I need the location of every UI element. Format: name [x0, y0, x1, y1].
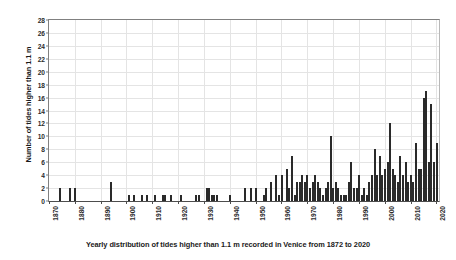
- y-tick-mark: [46, 188, 49, 189]
- y-tick-label: 4: [41, 172, 45, 179]
- bar: [216, 195, 218, 201]
- bar: [133, 195, 135, 201]
- x-tick-mark: [333, 201, 334, 204]
- x-tick-mark: [307, 201, 308, 204]
- x-tick-label: 1940: [233, 206, 240, 221]
- y-tick-label: 22: [38, 55, 45, 62]
- bar: [198, 195, 200, 201]
- x-tick-label: 1870: [52, 206, 59, 221]
- y-tick-label: 16: [38, 94, 45, 101]
- x-tick-mark: [436, 201, 437, 204]
- x-tick-mark: [152, 201, 153, 204]
- bar: [146, 195, 148, 201]
- bar: [141, 195, 143, 201]
- x-tick-label: 1920: [181, 206, 188, 221]
- bar: [180, 195, 182, 201]
- y-tick-label: 6: [41, 159, 45, 166]
- x-tick-mark: [204, 201, 205, 204]
- y-tick-label: 2: [41, 185, 45, 192]
- x-tick-label: 1890: [104, 206, 111, 221]
- y-tick-mark: [46, 58, 49, 59]
- y-tick-mark: [46, 32, 49, 33]
- y-tick-mark: [46, 97, 49, 98]
- y-tick-mark: [46, 110, 49, 111]
- y-tick-mark: [46, 175, 49, 176]
- x-tick-mark: [101, 201, 102, 204]
- y-tick-mark: [46, 162, 49, 163]
- x-tick-mark: [281, 201, 282, 204]
- y-tick-mark: [46, 149, 49, 150]
- bar: [154, 195, 156, 201]
- x-tick-mark: [178, 201, 179, 204]
- x-tick-label: 1950: [259, 206, 266, 221]
- y-tick-label: 8: [41, 146, 45, 153]
- x-tick-mark: [75, 201, 76, 204]
- bar: [265, 188, 267, 201]
- y-tick-mark: [46, 123, 49, 124]
- y-tick-mark: [46, 45, 49, 46]
- chart-container: Number of tides higher than 1.1 m 024681…: [0, 0, 456, 260]
- bar: [164, 195, 166, 201]
- bar: [250, 188, 252, 201]
- plot-area: 0246810121416182022242628 18701880189019…: [48, 19, 440, 202]
- x-tick-label: 1990: [362, 206, 369, 221]
- y-tick-mark: [46, 71, 49, 72]
- bar: [281, 175, 283, 201]
- bar: [110, 182, 112, 201]
- x-tick-label: 1880: [78, 206, 85, 221]
- bar: [270, 182, 272, 201]
- x-tick-label: 2020: [439, 206, 446, 221]
- y-axis-title: Number of tides higher than 1.1 m: [24, 10, 33, 200]
- y-tick-label: 0: [41, 198, 45, 205]
- y-tick-label: 14: [38, 107, 45, 114]
- y-tick-label: 12: [38, 120, 45, 127]
- bar: [255, 188, 257, 201]
- y-tick-mark: [46, 20, 49, 21]
- y-tick-label: 20: [38, 68, 45, 75]
- x-axis-title: Yearly distribution of tides higher than…: [0, 240, 456, 249]
- x-tick-label: 1930: [207, 206, 214, 221]
- y-tick-label: 26: [38, 29, 45, 36]
- x-tick-mark: [359, 201, 360, 204]
- y-tick-mark: [46, 84, 49, 85]
- x-tick-mark: [385, 201, 386, 204]
- bar: [74, 188, 76, 201]
- y-tick-label: 24: [38, 42, 45, 49]
- x-tick-label: 2000: [388, 206, 395, 221]
- bar: [128, 195, 130, 201]
- bar-series: [49, 20, 439, 201]
- x-tick-label: 1970: [310, 206, 317, 221]
- x-tick-mark: [126, 201, 127, 204]
- y-tick-mark: [46, 136, 49, 137]
- x-tick-label: 2010: [414, 206, 421, 221]
- bar: [59, 188, 61, 201]
- bar: [69, 188, 71, 201]
- y-tick-label: 18: [38, 81, 45, 88]
- x-tick-mark: [411, 201, 412, 204]
- x-tick-label: 1980: [336, 206, 343, 221]
- bar: [436, 143, 438, 201]
- bar: [170, 195, 172, 201]
- x-tick-mark: [49, 201, 50, 204]
- y-tick-label: 10: [38, 133, 45, 140]
- bar: [244, 188, 246, 201]
- x-tick-label: 1960: [284, 206, 291, 221]
- x-tick-label: 1900: [129, 206, 136, 221]
- x-tick-label: 1910: [155, 206, 162, 221]
- x-tick-mark: [256, 201, 257, 204]
- y-tick-label: 28: [38, 17, 45, 24]
- x-tick-mark: [230, 201, 231, 204]
